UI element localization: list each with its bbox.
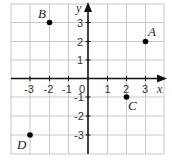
y-tick-label: 1 <box>77 54 83 66</box>
point-label: A <box>147 24 156 39</box>
x-tick-label: -2 <box>44 83 54 95</box>
point-label: C <box>128 98 137 113</box>
x-axis-label: x <box>156 82 163 96</box>
x-axis <box>11 75 167 83</box>
x-tick-label: 1 <box>105 83 111 95</box>
y-tick-label: -2 <box>74 110 84 122</box>
x-tick-label: -1 <box>62 83 72 95</box>
y-tick-label: -3 <box>74 129 84 141</box>
x-tick-label: 2 <box>123 83 129 95</box>
x-tick-label: -3 <box>24 83 34 95</box>
y-tick-label: 2 <box>77 36 83 48</box>
point-label: D <box>16 137 27 152</box>
point-marker <box>143 39 149 45</box>
point-c: C <box>124 94 137 113</box>
coordinate-plane: -3 -2 -1 0 1 2 3 3 2 1 -1 -2 -3 x y A B … <box>0 0 172 166</box>
y-tick-label: -1 <box>74 91 84 103</box>
point-label: B <box>38 6 46 21</box>
y-tick-label: 3 <box>77 17 83 29</box>
x-tick-label: 3 <box>142 83 148 95</box>
x-tick-labels: -3 -2 -1 0 1 2 3 <box>24 83 148 95</box>
y-axis-label: y <box>75 1 82 15</box>
point-marker <box>27 132 33 138</box>
point-marker <box>47 20 53 26</box>
